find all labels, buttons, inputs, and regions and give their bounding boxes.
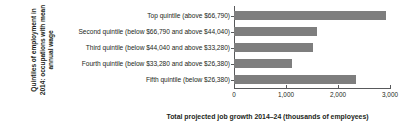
bar-chart: Quintiles of employment in 2014: occupat… xyxy=(0,0,411,132)
x-axis-tick-label: 1,000 xyxy=(278,91,294,98)
y-axis-tick-labels: Top quintile (above $66,790) Second quin… xyxy=(34,8,232,88)
bar-fourth-quintile xyxy=(234,59,292,68)
x-axis-tick-label: 0 xyxy=(232,91,236,98)
y-axis-tick-label: Second quintile (below $66,790 and above… xyxy=(78,24,230,40)
bar-top-quintile xyxy=(234,11,386,20)
y-axis-tick-label: Top quintile (above $66,790) xyxy=(147,8,230,24)
bar-second-quintile xyxy=(234,27,317,36)
bar-row xyxy=(234,72,390,88)
x-axis-tick-mark xyxy=(234,85,235,89)
x-axis-tick-mark xyxy=(286,85,287,89)
bar-fifth-quintile xyxy=(234,75,356,84)
x-axis-tick-label: 2,000 xyxy=(330,91,346,98)
x-axis-tick-label: 3,000 xyxy=(382,91,398,98)
x-axis-line xyxy=(234,88,390,89)
bar-row xyxy=(234,8,390,24)
bar-row xyxy=(234,40,390,56)
bar-third-quintile xyxy=(234,43,313,52)
y-axis-tick-label: Third quintile (below $44,040 and above … xyxy=(86,40,230,56)
bar-row xyxy=(234,56,390,72)
bar-row xyxy=(234,24,390,40)
y-axis-tick-label: Fifth quintile (below $26,380) xyxy=(146,72,230,88)
x-axis-tick-mark xyxy=(390,85,391,89)
x-axis-tick-mark xyxy=(338,85,339,89)
y-axis-tick-label: Fourth quintile (below $33,280 and above… xyxy=(82,56,230,72)
x-axis-title: Total projected job growth 2014–24 (thou… xyxy=(130,113,405,120)
plot-area xyxy=(234,8,390,88)
